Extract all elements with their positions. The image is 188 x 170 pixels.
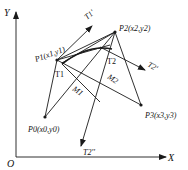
origin-label: O	[7, 158, 14, 169]
t2-double-prime-label: T2''	[83, 148, 95, 157]
x-axis-label: X	[167, 152, 175, 163]
p1-label: P1(x1,y1)	[33, 45, 67, 65]
m2-label: M2	[105, 72, 120, 86]
segment-p0-p1	[45, 60, 57, 117]
t2-label: T2	[107, 57, 116, 66]
t2-prime-label: T2'	[146, 60, 160, 73]
segment-p1-p3	[57, 60, 141, 105]
segment-t1-m	[62, 64, 100, 102]
p0-label: P0(x0,y0)	[27, 125, 60, 134]
point-p0	[43, 115, 46, 118]
p2-label: P2(x2,y2)	[118, 24, 151, 33]
p3-label: P3(x3,y3)	[144, 111, 177, 120]
segment-p2-p3	[115, 32, 141, 105]
bezier-tangent-diagram: Y X O P1(x1,y1) P2(x2,y2) P0(x0,y0) P3(x…	[0, 0, 188, 170]
m1-label: M1	[70, 84, 85, 98]
y-axis-label: Y	[4, 7, 11, 18]
t1-label: T1	[55, 70, 64, 79]
point-p1	[55, 58, 58, 61]
point-p2	[113, 30, 116, 33]
point-p3	[139, 103, 142, 106]
t1-prime-label: T1'	[83, 8, 97, 22]
